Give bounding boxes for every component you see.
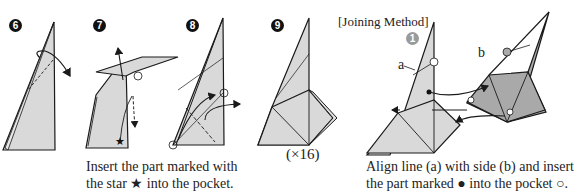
step-7-caption-line-2: the star ★ into the pocket.: [86, 175, 234, 192]
step-8-figure: [169, 18, 240, 149]
joining-left-piece: [367, 22, 460, 155]
step-7-figure: ★: [86, 48, 178, 148]
label-b: b: [478, 45, 485, 61]
joining-caption-line-2: the part marked ● into the pocket ○.: [366, 175, 568, 192]
joining-right-piece: [429, 12, 549, 122]
step-7-caption-line-1: Insert the part marked with: [86, 158, 238, 175]
step-9-figure: [258, 18, 337, 145]
step-6-figure: [3, 22, 70, 150]
joining-caption-line-1: Align line (a) with side (b) and insert: [366, 158, 574, 175]
svg-text:★: ★: [115, 135, 125, 147]
multiplier-label: (×16): [286, 146, 319, 163]
label-a: a: [398, 57, 404, 73]
